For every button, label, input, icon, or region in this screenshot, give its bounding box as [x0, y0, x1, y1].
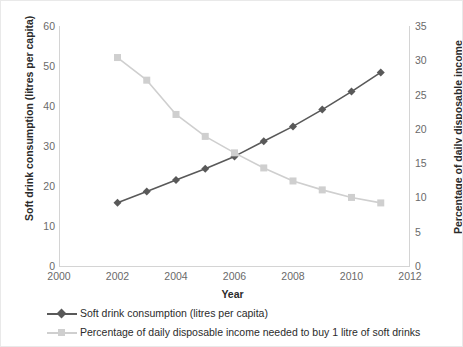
data-point-marker [290, 177, 297, 184]
data-point-marker [260, 164, 267, 171]
series-2 [114, 54, 384, 206]
legend-diamond-icon [47, 308, 77, 319]
y-axis-right-tick-label: 10 [415, 192, 427, 203]
x-axis-tick-label: 2010 [340, 271, 363, 282]
data-point-marker [202, 133, 209, 140]
data-point-marker [377, 68, 385, 76]
plot-area [59, 26, 410, 266]
y-axis-right-tick-label: 15 [415, 158, 427, 169]
y-axis-left-tick-label: 40 [43, 101, 55, 112]
x-axis-tick-label: 2002 [106, 271, 129, 282]
y-axis-left-ticks: 0102030405060 [31, 26, 55, 266]
x-axis-tick-label: 2000 [47, 271, 70, 282]
data-point-marker [143, 77, 150, 84]
x-axis-tick-label: 2012 [398, 271, 421, 282]
data-point-marker [114, 199, 122, 207]
data-point-marker [348, 194, 355, 201]
data-point-marker [348, 88, 356, 96]
y-axis-right-tick-label: 35 [415, 21, 427, 32]
legend-item[interactable]: Soft drink consumption (litres per capit… [1, 304, 463, 323]
x-axis-tick-label: 2004 [164, 271, 187, 282]
y-axis-right-tick-label: 20 [415, 124, 427, 135]
data-point-marker [319, 186, 326, 193]
chart-container: Soft drink consumption (litres per capit… [0, 0, 463, 347]
data-point-marker [201, 165, 209, 173]
y-axis-left-tick-label: 20 [43, 181, 55, 192]
y-axis-right-ticks: 05101520253035 [415, 26, 439, 266]
data-point-marker [377, 199, 384, 206]
chart-legend: Soft drink consumption (litres per capit… [1, 304, 463, 342]
x-axis-line [59, 266, 410, 267]
data-point-marker [260, 137, 268, 145]
x-axis-title: Year [1, 288, 463, 300]
y-axis-right-tick-label: 5 [415, 226, 421, 237]
x-axis-tick-label: 2006 [223, 271, 246, 282]
data-point-marker [318, 106, 326, 114]
x-axis-tick-label: 2008 [281, 271, 304, 282]
data-point-marker [143, 188, 151, 196]
y-axis-right-title: Percentage of daily disposable income [452, 44, 463, 234]
data-point-marker [231, 149, 238, 156]
y-axis-right-tick-label: 30 [415, 55, 427, 66]
data-point-marker [289, 122, 297, 130]
legend-item-label: Percentage of daily disposable income ne… [80, 327, 420, 338]
y-axis-left-tick-label: 30 [43, 141, 55, 152]
y-axis-right-tick-label: 25 [415, 89, 427, 100]
y-axis-left-tick-label: 60 [43, 21, 55, 32]
y-axis-left-tick-label: 50 [43, 61, 55, 72]
series-plot [59, 26, 410, 266]
legend-item[interactable]: Percentage of daily disposable income ne… [1, 323, 463, 342]
data-point-marker [173, 111, 180, 118]
data-point-marker [114, 54, 121, 61]
data-point-marker [172, 176, 180, 184]
series-line [118, 58, 381, 203]
y-axis-left-tick-label: 10 [43, 221, 55, 232]
legend-item-label: Soft drink consumption (litres per capit… [80, 308, 268, 319]
legend-square-icon [47, 327, 77, 338]
x-axis-ticks: 2000200220042006200820102012 [59, 271, 410, 285]
